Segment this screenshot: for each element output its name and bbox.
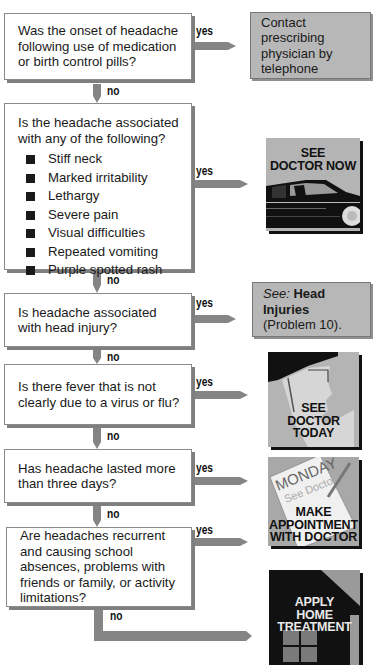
outcome-see-doctor-now: SEE DOCTOR NOW <box>266 138 360 231</box>
outcome-caption: SEE DOCTOR TODAY <box>268 402 359 440</box>
outcome-caption: MAKE APPOINTMENT WITH DOCTOR <box>268 506 359 544</box>
no-label: no <box>107 429 119 443</box>
outcome-make-appointment: MONDAY See Doctor MAKE APPOINTMENT WITH … <box>268 457 359 546</box>
outcome-text: Contact prescribing physician by telepho… <box>261 15 364 77</box>
outcome-caption: SEE DOCTOR NOW <box>266 147 360 172</box>
yes-label: yes <box>196 24 213 38</box>
see-reference: (Problem 10). <box>263 317 364 333</box>
see-prefix: See: <box>263 286 290 301</box>
symptom-item: Severe pain <box>26 206 183 225</box>
no-label: no <box>107 273 119 287</box>
outcome-head-injuries-reference: See: Head Injuries (Problem 10). <box>252 282 371 337</box>
question-box-symptoms: Is the headache associated with any of t… <box>4 103 192 270</box>
no-label: no <box>107 350 119 364</box>
yes-label: yes <box>196 164 213 178</box>
yes-arrow-q1 <box>195 42 236 50</box>
symptom-item: Purple spotted rash <box>26 261 183 280</box>
outcome-see-doctor-today: SEE DOCTOR TODAY <box>268 352 359 447</box>
yes-arrow-q4 <box>195 391 248 399</box>
question-text: Is there fever that is not clearly due t… <box>18 379 183 410</box>
no-arrow-q1 <box>93 84 101 103</box>
yes-label: yes <box>196 523 213 537</box>
symptom-item: Repeated vomiting <box>26 243 183 262</box>
yes-label: yes <box>196 461 213 475</box>
no-arrow-q3 <box>93 350 101 364</box>
yes-arrow-q6 <box>195 538 248 546</box>
no-label: no <box>107 84 119 98</box>
yes-arrow-q2 <box>195 180 248 188</box>
question-text: Is the headache associated with any of t… <box>18 115 183 146</box>
question-box-recurrent: Are headaches recurrent and causing scho… <box>6 527 192 607</box>
question-text: Was the onset of headache following use … <box>18 23 183 70</box>
question-box-three-days: Has headache lasted more than three days… <box>4 449 192 503</box>
outcome-caption: APPLY HOME TREATMENT <box>269 596 360 634</box>
question-box-head-injury: Is headache associated with head injury? <box>4 293 192 347</box>
yes-arrow-q5 <box>195 477 248 485</box>
outcome-contact-physician: Contact prescribing physician by telepho… <box>250 12 371 79</box>
no-label: no <box>110 609 122 623</box>
question-text: Is headache associated with head injury? <box>18 305 183 336</box>
no-arrow-q4 <box>93 428 101 449</box>
question-box-fever: Is there fever that is not clearly due t… <box>4 364 192 425</box>
yes-arrow-q3 <box>195 315 236 323</box>
no-arrow-q5 <box>93 506 101 527</box>
symptom-list: Stiff neck Marked irritability Lethargy … <box>18 150 183 280</box>
symptom-item: Lethargy <box>26 187 183 206</box>
question-text: Has headache lasted more than three days… <box>18 461 183 492</box>
yes-label: yes <box>196 375 213 389</box>
symptom-item: Stiff neck <box>26 150 183 169</box>
question-text: Are headaches recurrent and causing scho… <box>20 528 183 606</box>
no-label: no <box>107 507 119 521</box>
outcome-apply-home-treatment: APPLY HOME TREATMENT <box>269 570 360 665</box>
symptom-item: Visual difficulties <box>26 224 183 243</box>
symptom-item: Marked irritability <box>26 169 183 188</box>
question-box-medication: Was the onset of headache following use … <box>4 13 192 80</box>
yes-label: yes <box>196 296 213 310</box>
